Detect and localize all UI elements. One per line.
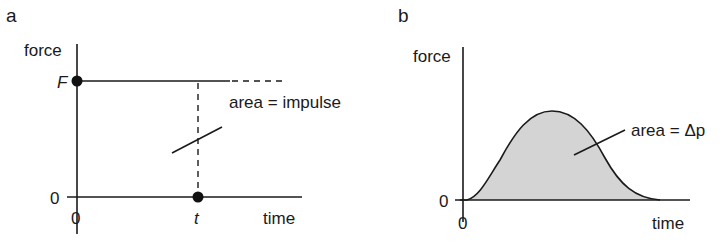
panel-a-annotation: area = impulse xyxy=(229,93,341,112)
panel-a: a force F 0 0 t time area = impulse xyxy=(6,5,341,234)
panel-a-point-t xyxy=(193,192,204,203)
panel-a-leader-line xyxy=(172,127,222,153)
panel-a-point-f xyxy=(72,76,83,87)
panel-b: b force 0 0 time area = Δp xyxy=(398,5,705,233)
panel-b-x-axis-label: time xyxy=(652,214,684,233)
panel-a-tick-0-x: 0 xyxy=(71,209,80,228)
panel-b-tick-0-x: 0 xyxy=(458,214,467,233)
panel-a-tick-f: F xyxy=(57,73,69,92)
panel-b-y-axis-label: force xyxy=(413,47,451,66)
panel-a-label: a xyxy=(6,5,17,26)
panel-b-annotation: area = Δp xyxy=(631,121,705,140)
panel-b-tick-0-y: 0 xyxy=(439,192,448,211)
panel-a-tick-0-y: 0 xyxy=(50,189,59,208)
panel-b-label: b xyxy=(398,5,409,26)
panel-a-y-axis-label: force xyxy=(24,41,62,60)
panel-a-tick-t: t xyxy=(194,209,200,228)
figure: a force F 0 0 t time area = impulse b fo… xyxy=(0,0,722,249)
panel-a-x-axis-label: time xyxy=(263,209,295,228)
